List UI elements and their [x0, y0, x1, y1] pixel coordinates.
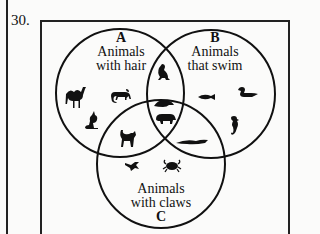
- bear-icon: [156, 114, 176, 124]
- fish-icon: [198, 94, 215, 100]
- kangaroo-icon: [85, 111, 98, 129]
- set-c-line2: with claws: [121, 196, 201, 210]
- set-c-line1: Animals: [121, 182, 201, 196]
- seahorse-icon: [231, 116, 239, 135]
- set-b-line1: Animals: [180, 45, 250, 59]
- camel-icon: [66, 87, 87, 108]
- duck-icon: [238, 87, 258, 97]
- set-b-letter: B: [180, 31, 250, 45]
- set-a-letter: A: [86, 31, 156, 45]
- starfish-icon: [125, 162, 139, 171]
- set-c-letter: C: [121, 210, 201, 224]
- set-a-line1: Animals: [86, 45, 156, 59]
- label-set-b: B Animals that swim: [180, 31, 250, 73]
- set-b-line2: that swim: [180, 59, 250, 73]
- seal-icon: [158, 64, 170, 80]
- monkey-icon: [111, 89, 131, 103]
- alligator-icon: [176, 140, 208, 145]
- crab-icon: [163, 160, 181, 172]
- label-set-c: Animals with claws C: [121, 182, 201, 224]
- cat-icon: [120, 130, 136, 147]
- label-set-a: A Animals with hair: [86, 31, 156, 73]
- set-a-line2: with hair: [86, 59, 156, 73]
